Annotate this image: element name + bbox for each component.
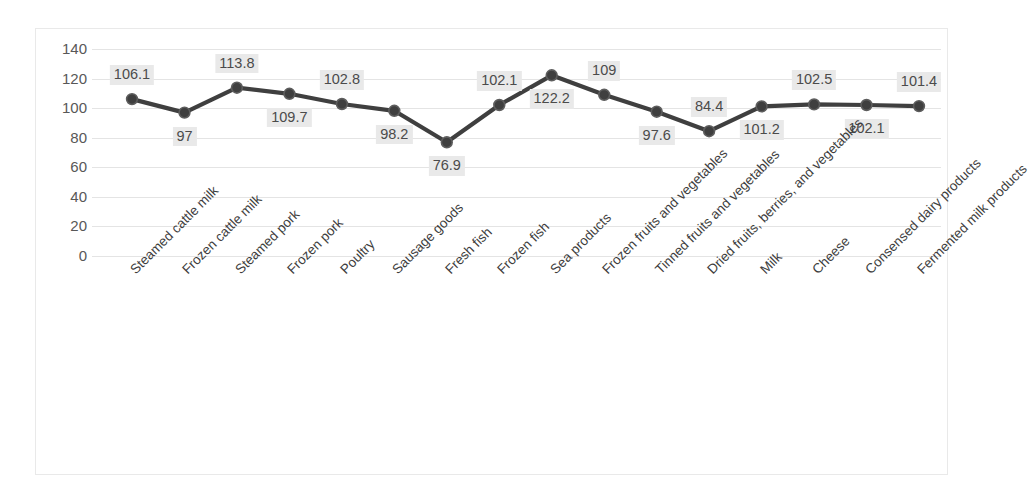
x-axis-tick-label: Fermented milk products xyxy=(915,162,1030,277)
plot-area: 020406080100120140 106.197113.8109.7102.… xyxy=(36,29,949,476)
chart-container: 020406080100120140 106.197113.8109.7102.… xyxy=(35,28,948,475)
x-axis-tick-label: Cheese xyxy=(810,234,852,276)
x-axis-tick-label: Poultry xyxy=(338,237,377,276)
x-axis-tick-labels: Steamed cattle milkFrozen cattle milkSte… xyxy=(36,29,949,476)
x-axis-tick-label: Fresh fish xyxy=(443,225,494,276)
x-axis-tick-label: Frozen fish xyxy=(495,220,552,277)
x-axis-tick-label: Steamed cattle milk xyxy=(128,184,221,277)
x-axis-tick-label: Milk xyxy=(758,250,785,277)
